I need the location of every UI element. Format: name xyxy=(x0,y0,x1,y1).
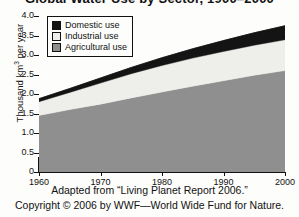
y-axis-tick-3-0: 3.0 xyxy=(0,50,34,59)
y-axis-tick-4-0: 4.0 xyxy=(0,11,34,20)
legend-item-agricultural[interactable]: Agricultural use xyxy=(52,42,127,53)
legend-swatch-industrial-icon xyxy=(52,32,61,41)
x-axis-tick-mark xyxy=(224,172,225,176)
y-axis-tick-0: 0 xyxy=(0,167,34,176)
legend-label: Domestic use xyxy=(65,21,120,30)
caption-copyright-line: Copyright © 2006 by WWF—World Wide Fund … xyxy=(0,198,299,213)
y-axis-tick-1-0: 1.0 xyxy=(0,128,34,137)
legend-item-domestic[interactable]: Domestic use xyxy=(52,20,127,31)
chart-title: Global Water Use by Sector, 1900–2000 xyxy=(0,0,299,6)
legend-item-industrial[interactable]: Industrial use xyxy=(52,31,127,42)
y-axis-tick-0-5: 0.5 xyxy=(0,148,34,157)
y-axis-line xyxy=(38,157,39,173)
caption-source-line: Adapted from “Living Planet Report 2006.… xyxy=(0,183,299,198)
chart-title-clip: Global Water Use by Sector, 1900–2000 xyxy=(0,0,299,7)
y-axis-tick-3-5: 3.5 xyxy=(0,31,34,40)
x-axis-tick-mark xyxy=(285,172,286,176)
y-axis-tick-2-0: 2.0 xyxy=(0,89,34,98)
legend-label: Industrial use xyxy=(65,32,119,41)
figure-caption: Adapted from “Living Planet Report 2006.… xyxy=(0,183,299,213)
chart-figure: Thousand km3 per year 4.03.53.02.52.01.5… xyxy=(0,7,299,182)
y-axis-tick-2-5: 2.5 xyxy=(0,70,34,79)
y-axis-tick-labels: 4.03.53.02.52.01.51.00.50 xyxy=(0,7,34,182)
legend-swatch-agricultural-icon xyxy=(52,43,61,52)
legend-label: Agricultural use xyxy=(65,43,127,52)
x-axis-tick-mark xyxy=(162,172,163,176)
x-axis-tick-mark xyxy=(101,172,102,176)
legend-swatch-domestic-icon xyxy=(52,21,61,30)
chart-legend: Domestic useIndustrial useAgricultural u… xyxy=(47,16,133,57)
y-axis-tick-1-5: 1.5 xyxy=(0,109,34,118)
x-axis-tick-mark xyxy=(39,172,40,176)
